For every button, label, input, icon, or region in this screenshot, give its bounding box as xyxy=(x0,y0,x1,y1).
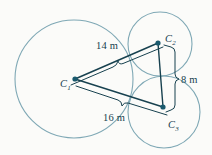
circle-c3 xyxy=(128,76,200,148)
circles-triangle-figure: 14 m 16 m 8 m C1 C2 C3 xyxy=(0,0,212,155)
dimension-label-8m: 8 m xyxy=(181,75,198,86)
dot-c1 xyxy=(72,76,77,81)
point-label-c3: C3 xyxy=(168,120,179,131)
dimension-label-14m: 14 m xyxy=(96,41,118,52)
point-label-c2: C2 xyxy=(165,34,176,45)
dimension-label-16m: 16 m xyxy=(103,113,125,124)
point-label-c2-sub: 2 xyxy=(172,39,176,47)
side-c1-c3 xyxy=(75,79,163,107)
brace-8m xyxy=(164,45,179,112)
point-label-c2-base: C xyxy=(165,33,172,44)
side-c2-c3 xyxy=(158,43,163,107)
dot-c2 xyxy=(155,40,160,45)
point-label-c1-sub: 1 xyxy=(67,84,71,92)
point-label-c3-sub: 3 xyxy=(175,125,179,133)
point-label-c1-base: C xyxy=(60,78,67,89)
point-label-c1: C1 xyxy=(60,79,71,90)
point-label-c3-base: C xyxy=(168,119,175,130)
dot-c3 xyxy=(160,104,165,109)
brace-16m xyxy=(76,86,167,115)
